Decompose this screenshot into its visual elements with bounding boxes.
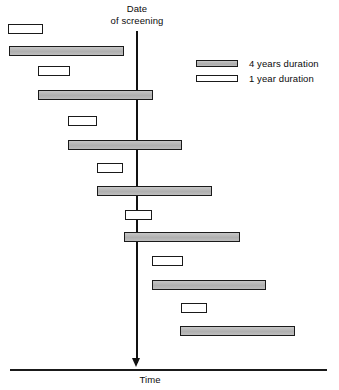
bar-3-one-year: [38, 66, 70, 76]
time-axis-line: [10, 369, 327, 371]
bar-8-four-year: [97, 186, 212, 196]
screening-date-label: Date of screening: [97, 3, 177, 26]
bar-9-one-year: [125, 210, 152, 220]
bar-5-one-year: [68, 116, 97, 126]
bar-6-four-year: [68, 140, 182, 150]
legend-swatch-one-year-icon: [196, 75, 238, 82]
legend-label-four-year: 4 years duration: [249, 58, 319, 69]
screening-duration-chart: Date of screening 4 years duration 1 yea…: [0, 0, 339, 390]
bar-11-one-year: [152, 256, 183, 266]
bar-4-four-year: [38, 90, 153, 100]
bar-10-four-year: [124, 232, 240, 242]
bar-13-one-year: [181, 303, 207, 313]
chart-legend: 4 years duration 1 year duration: [196, 56, 336, 86]
legend-label-one-year: 1 year duration: [249, 73, 314, 84]
legend-item-one-year: 1 year duration: [196, 71, 336, 86]
legend-swatch-four-year-icon: [196, 60, 238, 67]
bar-1-one-year: [8, 24, 43, 34]
time-axis-label: Time: [120, 374, 180, 385]
bar-7-one-year: [97, 163, 123, 173]
bar-2-four-year: [9, 46, 124, 56]
screening-date-line: [136, 31, 138, 363]
legend-item-four-year: 4 years duration: [196, 56, 336, 71]
bar-12-four-year: [152, 280, 266, 290]
bar-14-four-year: [180, 326, 295, 336]
screening-date-arrow-icon: [132, 358, 140, 367]
